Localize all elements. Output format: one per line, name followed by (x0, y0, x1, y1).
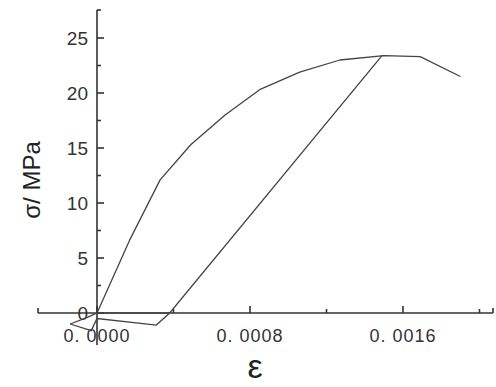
unloading-branch-line (70, 56, 382, 331)
x-tick-label: 0. 0016 (369, 326, 436, 346)
x-axis-title: ε (247, 347, 262, 385)
x-tick-label: 0. 0000 (63, 326, 130, 346)
x-axis (38, 308, 493, 313)
y-tick-labels: 0510152025 (67, 28, 88, 324)
y-tick-label: 15 (67, 138, 88, 159)
y-tick-label: 5 (77, 248, 88, 269)
y-tick-label: 10 (67, 193, 88, 214)
loading-envelope-line (97, 56, 460, 313)
y-tick-label: 20 (67, 83, 88, 104)
x-tick-labels: 0. 00000. 00080. 0016 (63, 326, 436, 346)
x-tick-label: 0. 0008 (216, 326, 283, 346)
stress-strain-chart: 0510152025 0. 00000. 00080. 0016 ε σ/ MP… (0, 0, 496, 387)
y-axis-title: σ/ MPa (18, 141, 45, 219)
x-ticks (97, 306, 480, 313)
y-tick-label: 25 (67, 28, 88, 49)
data-series (70, 56, 460, 331)
y-axis (97, 10, 101, 345)
y-ticks (97, 38, 104, 313)
